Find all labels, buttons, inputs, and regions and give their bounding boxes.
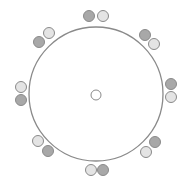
node-light (16, 82, 27, 93)
node-dark (84, 11, 95, 22)
node-pair-bottom (86, 165, 109, 176)
node-light (86, 165, 97, 176)
node-dark (98, 165, 109, 176)
node-light (44, 28, 55, 39)
node-dark (16, 95, 27, 106)
node-light (166, 92, 177, 103)
center-circle (91, 90, 101, 100)
diagram-canvas (0, 0, 187, 185)
node-pair-right (166, 79, 177, 103)
round-table-diagram (0, 0, 187, 185)
node-dark (166, 79, 177, 90)
node-pair-top (84, 11, 109, 22)
node-dark (150, 137, 161, 148)
node-light (149, 39, 160, 50)
node-light (33, 136, 44, 147)
node-pair-bottom-right (141, 137, 161, 158)
node-dark (34, 37, 45, 48)
node-pair-bottom-left (33, 136, 54, 157)
node-dark (43, 146, 54, 157)
node-light (141, 147, 152, 158)
node-pair-left (16, 82, 27, 106)
node-dark (140, 30, 151, 41)
node-light (98, 11, 109, 22)
